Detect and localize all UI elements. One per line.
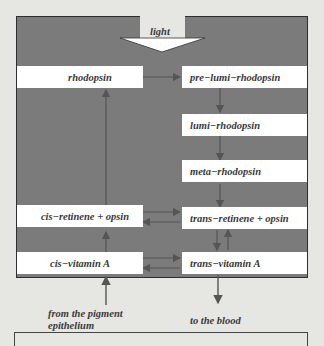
from-pigment-line2: epithelium [48,320,123,332]
from-pigment-line1: from the pigment [48,308,123,320]
bottom-frame [14,332,308,346]
node-label: cis−vitamin A [50,258,110,269]
node-label: lumi−rhodopsin [190,120,260,131]
node-pre-lumi-rhodopsin: pre−lumi−rhodopsin [182,66,307,88]
node-label: cis−retinene + opsin [41,211,129,222]
node-cis-vitamin-a: cis−vitamin A [17,252,143,274]
to-blood-label: to the blood [190,315,241,327]
node-cis-retinene-opsin: cis−retinene + opsin [17,205,143,227]
node-label: trans−vitamin A [190,258,260,269]
light-label: light [150,26,170,38]
node-label: trans−retinene + opsin [190,213,289,224]
node-meta-rhodopsin: meta−rhodopsin [182,160,307,182]
node-rhodopsin: rhodopsin [17,66,143,88]
node-lumi-rhodopsin: lumi−rhodopsin [182,114,307,136]
node-trans-vitamin-a: trans−vitamin A [182,252,307,274]
node-label: pre−lumi−rhodopsin [190,72,280,83]
from-pigment-label: from the pigment epithelium [48,308,123,332]
node-label: meta−rhodopsin [190,166,261,177]
node-trans-retinene-opsin: trans−retinene + opsin [182,207,307,229]
node-label: rhodopsin [68,72,112,83]
light-arrow-icon [120,38,205,52]
